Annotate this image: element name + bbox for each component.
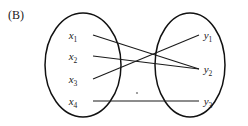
node-label-x1: x1 xyxy=(68,29,78,44)
node-subscript-y1: 1 xyxy=(209,35,213,44)
edge-x3-y1 xyxy=(93,35,199,79)
node-label-y3: y3 xyxy=(203,95,213,110)
node-subscript-y3: 3 xyxy=(209,101,213,110)
node-label-x3: x3 xyxy=(68,73,78,88)
node-subscript-x1: 1 xyxy=(74,35,78,44)
node-label-x2: x2 xyxy=(68,50,78,65)
node-subscript-x3: 3 xyxy=(74,79,78,88)
node-subscript-x4: 4 xyxy=(74,101,78,110)
edge-x1-y2 xyxy=(93,35,199,69)
node-label-y1: y1 xyxy=(203,29,213,44)
node-label-x4: x4 xyxy=(68,95,78,110)
figure-container: (B) x1 x2 x3 x4 y1 y2 y3 xyxy=(0,0,248,126)
bipartite-graph-diagram: x1 x2 x3 x4 y1 y2 y3 xyxy=(0,0,248,126)
edge-x2-y2 xyxy=(93,56,199,69)
node-subscript-y2: 2 xyxy=(209,69,213,78)
node-label-y2: y2 xyxy=(203,63,213,78)
node-subscript-x2: 2 xyxy=(74,56,78,65)
print-speck xyxy=(136,92,138,94)
